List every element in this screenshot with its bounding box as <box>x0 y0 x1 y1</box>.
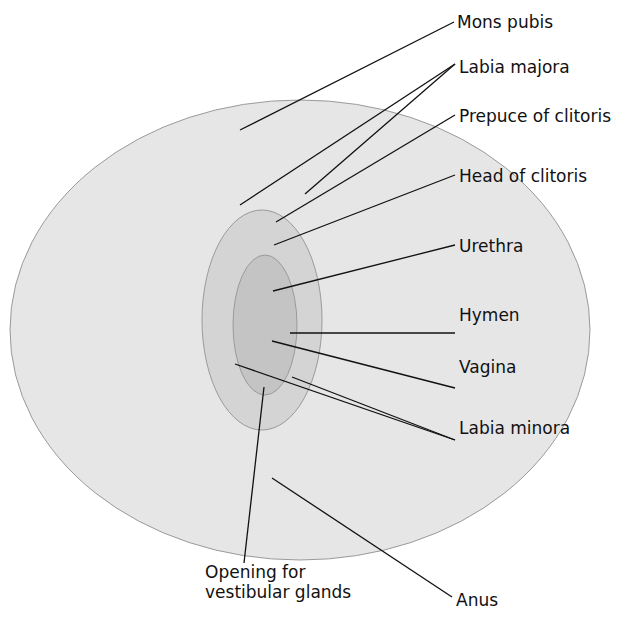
diagram-canvas <box>0 0 637 635</box>
label-vagina: Vagina <box>459 357 516 377</box>
label-mons-pubis: Mons pubis <box>457 12 553 32</box>
label-opening-glands: Opening for vestibular glands <box>205 562 351 602</box>
label-head-clitoris: Head of clitoris <box>459 166 587 186</box>
label-urethra: Urethra <box>459 236 523 256</box>
label-labia-majora: Labia majora <box>459 57 570 77</box>
label-anus: Anus <box>456 590 498 610</box>
label-hymen: Hymen <box>459 305 520 325</box>
label-prepuce-clitoris: Prepuce of clitoris <box>459 106 611 126</box>
label-labia-minora: Labia minora <box>459 418 570 438</box>
